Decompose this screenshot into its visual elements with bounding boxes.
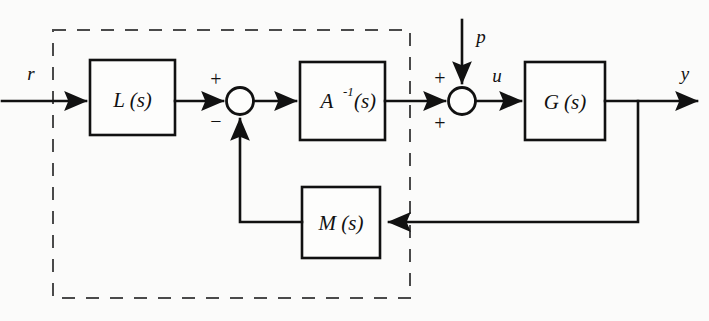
block-L-label: L (s) <box>112 88 152 112</box>
sum1-minus-sign: − <box>210 110 221 132</box>
summing-junction-1 <box>227 88 254 115</box>
reference-signal-label: r <box>27 63 35 84</box>
sum1-plus-sign: + <box>210 68 221 90</box>
block-M-label: M (s) <box>318 211 364 235</box>
block-diagram-svg: L (s) A -1 (s) G (s) M (s) r p u y + − +… <box>0 0 709 321</box>
block-A-inverse-exponent-label: -1 <box>343 84 354 99</box>
block-diagram-canvas: L (s) A -1 (s) G (s) M (s) r p u y + − +… <box>0 0 709 321</box>
control-signal-label: u <box>492 65 502 86</box>
disturbance-signal-label: p <box>474 26 486 47</box>
sum2-plus-sign-bottom: + <box>434 112 445 134</box>
block-G-label: G (s) <box>544 90 587 114</box>
feedback-wire-M-to-sum1 <box>240 119 302 222</box>
output-signal-label: y <box>679 63 690 84</box>
summing-junction-2 <box>449 88 476 115</box>
block-A-inverse-arg-label: (s) <box>354 89 376 113</box>
sum2-plus-sign-top: + <box>434 67 445 89</box>
block-A-inverse-base-label: A <box>319 89 334 113</box>
